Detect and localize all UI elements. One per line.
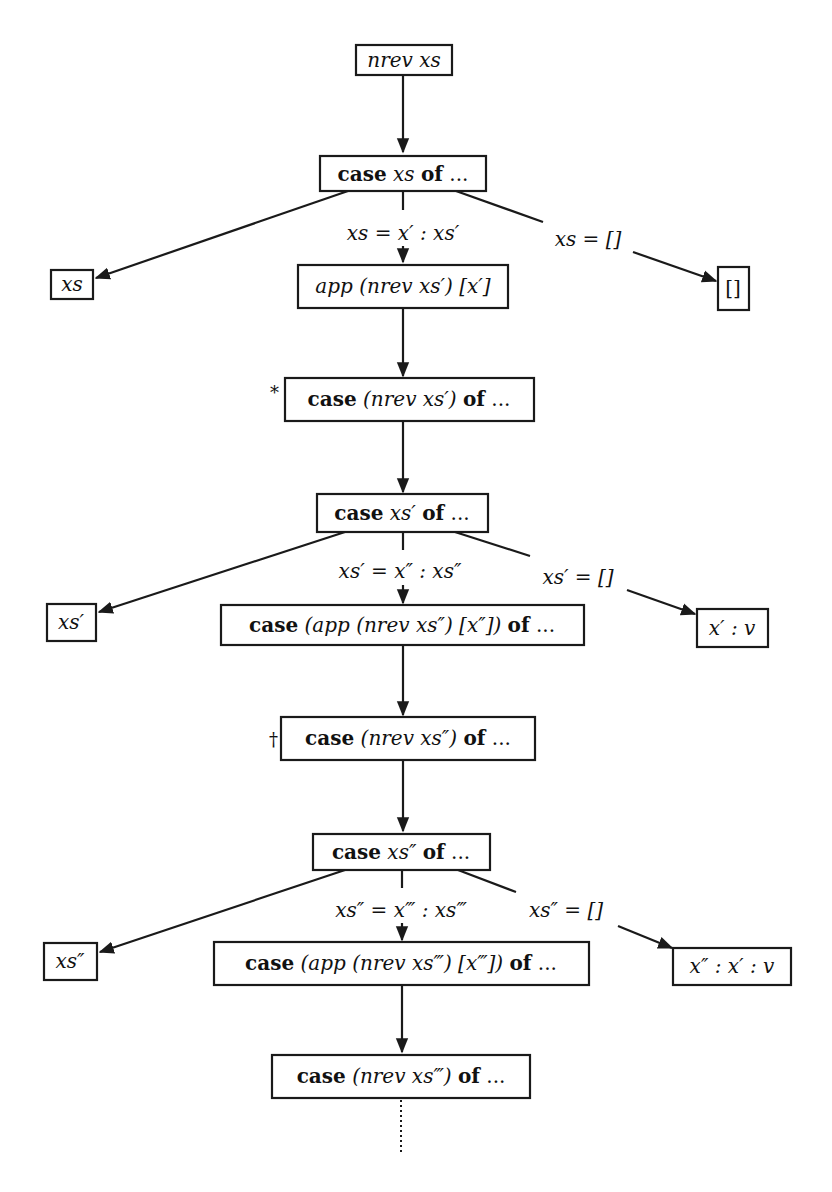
edge-n2-n5-top [456,191,543,222]
node-case-app-1: case (app (nrev xs″) [x″]) of ... [221,605,584,645]
node-case-nrev-3: case (nrev xs‴) of ... [272,1055,530,1098]
evaluation-tree-diagram: nrev xs case xs of ... xs = x′ : xs′ xs … [0,0,832,1192]
node-result-x-prime-v: x′ : v [697,609,768,647]
node-label: app (nrev xs′) [x′] [315,274,490,298]
edge-label-nil-2: xs′ = [] [542,565,613,589]
node-label: xs′ [58,610,85,634]
node-label: x″ : x′ : v [690,954,775,978]
node-nrev-xs: nrev xs [356,45,452,75]
node-label: case (nrev xs′) of ... [308,387,511,411]
node-label: case xs″ of ... [332,840,470,864]
node-label: case (app (nrev xs‴) [x‴]) of ... [245,951,557,975]
node-label: case (app (nrev xs″) [x″]) of ... [249,613,555,637]
dagger-marker: † [269,729,278,750]
node-label: case xs′ of ... [334,501,469,525]
node-result-x-double-prime-list: x″ : x′ : v [673,948,791,985]
edge-n7-n10-bottom [627,590,695,614]
node-label: [] [725,276,741,300]
node-result-xs: xs [51,270,93,299]
node-result-nil: [] [718,267,749,310]
node-label: case (nrev xs″) of ... [305,726,511,750]
node-label: case (nrev xs‴) of ... [297,1064,506,1088]
edge-label-cons-1: xs = x′ : xs′ [347,221,460,245]
edge-n12-n13 [100,870,345,952]
edge-label-cons-2: xs′ = x″ : xs″ [339,559,462,583]
node-case-nrev-1: * case (nrev xs′) of ... [270,378,534,421]
edge-label-cons-3: xs″ = x‴ : xs‴ [335,898,467,922]
star-marker: * [270,382,279,403]
edge-n2-n5-bottom [633,252,716,281]
edge-label-nil-3: xs″ = [] [529,898,603,922]
edge-n7-n8 [99,532,345,612]
node-label: xs [61,272,83,296]
node-case-xs-prime: case xs′ of ... [317,494,488,532]
node-label: case xs of ... [338,162,469,186]
node-case-xs: case xs of ... [320,156,486,191]
node-app-nrev: app (nrev xs′) [x′] [298,265,508,308]
node-result-xs-double-prime: xs″ [44,943,97,980]
edge-n12-n15-top [458,870,516,892]
node-case-app-2: case (app (nrev xs‴) [x‴]) of ... [214,942,589,985]
edge-n12-n15-bottom [618,926,672,948]
edge-label-nil-1: xs = [] [555,227,622,251]
node-label: xs″ [55,949,85,973]
node-case-xs-double-prime: case xs″ of ... [313,834,490,870]
node-case-nrev-2: † case (nrev xs″) of ... [269,717,535,760]
edge-n7-n10-top [455,532,530,556]
node-label: x′ : v [709,616,756,640]
node-result-xs-prime: xs′ [47,604,96,641]
node-label: nrev xs [367,48,440,72]
